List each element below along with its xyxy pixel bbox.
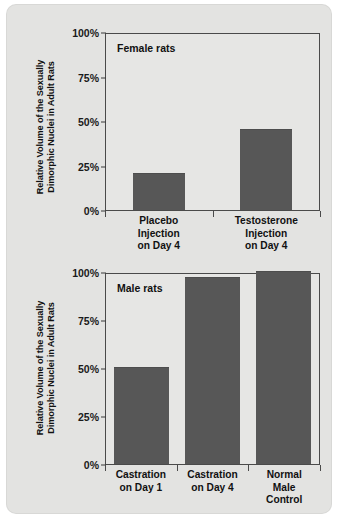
bar-cell: [106, 274, 177, 464]
x-category-label-line: Control: [248, 494, 320, 507]
x-axis-tick: [320, 211, 321, 217]
x-category-label-line: Injection: [213, 228, 321, 241]
x-category-label-line: Castration: [105, 469, 177, 482]
bar: [185, 277, 240, 464]
x-axis-tick: [248, 465, 249, 471]
x-category-label-line: on Day 4: [105, 240, 213, 253]
y-tick-mark: [101, 166, 106, 167]
y-axis-title-line2: Dimorphic Nuclei in Adult Rats: [46, 61, 57, 192]
chart-female-rats: Relative Volume of the Sexually Dimorphi…: [7, 10, 331, 258]
bar: [114, 367, 169, 464]
y-tick-mark: [101, 77, 106, 78]
y-axis-tick-labels-male: 0%25%50%75%100%: [59, 273, 99, 465]
y-axis-title-line2: Dimorphic Nuclei in Adult Rats: [46, 302, 57, 433]
y-axis-title-male: Relative Volume of the Sexually Dimorphi…: [29, 263, 63, 473]
y-tick-label: 50%: [78, 363, 99, 375]
x-category-label-line: Testosterone: [213, 215, 321, 228]
y-tick-label: 25%: [78, 161, 99, 173]
y-tick-mark: [101, 321, 106, 322]
bar: [256, 271, 311, 464]
y-axis-title-line1: Relative Volume of the Sexually: [35, 301, 46, 436]
x-category-label: Castrationon Day 4: [177, 469, 249, 507]
x-axis-labels-female: PlaceboInjectionon Day 4TestosteroneInje…: [105, 215, 320, 253]
y-axis-title-line1: Relative Volume of the Sexually: [35, 60, 46, 195]
y-tick-label: 100%: [72, 27, 99, 39]
y-tick-mark: [101, 33, 106, 34]
bar-cell: [177, 274, 248, 464]
x-category-label-line: Male: [248, 482, 320, 495]
x-category-label: NormalMaleControl: [248, 469, 320, 507]
y-tick-label: 25%: [78, 411, 99, 423]
x-axis-tick: [105, 211, 106, 217]
bar-cell: [106, 34, 213, 210]
x-category-label-line: on Day 4: [177, 482, 249, 495]
plot-area-male: Male rats: [105, 273, 320, 465]
x-category-label-line: Castration: [177, 469, 249, 482]
y-tick-mark: [101, 369, 106, 370]
x-axis-tick: [213, 211, 214, 217]
bar-group-female: [106, 34, 319, 210]
x-category-label-line: on Day 4: [213, 240, 321, 253]
figure-card: Relative Volume of the Sexually Dimorphi…: [7, 5, 331, 513]
bar-group-male: [106, 274, 319, 464]
y-tick-label: 75%: [78, 72, 99, 84]
y-tick-label: 0%: [84, 459, 99, 471]
x-axis-tick: [177, 465, 178, 471]
y-axis-title-female: Relative Volume of the Sexually Dimorphi…: [29, 22, 63, 232]
bar: [133, 173, 185, 210]
y-tick-label: 0%: [84, 205, 99, 217]
y-tick-label: 100%: [72, 267, 99, 279]
x-axis-labels-male: Castrationon Day 1Castrationon Day 4Norm…: [105, 469, 320, 507]
y-tick-mark: [101, 417, 106, 418]
chart-male-rats: Relative Volume of the Sexually Dimorphi…: [7, 255, 331, 510]
y-tick-label: 50%: [78, 116, 99, 128]
bar-cell: [248, 274, 319, 464]
x-axis-tick: [320, 465, 321, 471]
y-tick-mark: [101, 122, 106, 123]
x-category-label-line: on Day 1: [105, 482, 177, 495]
x-category-label: TestosteroneInjectionon Day 4: [213, 215, 321, 253]
x-axis-tick: [105, 465, 106, 471]
x-category-label-line: Placebo: [105, 215, 213, 228]
y-tick-mark: [101, 273, 106, 274]
bar-cell: [213, 34, 320, 210]
y-axis-tick-labels-female: 0%25%50%75%100%: [59, 33, 99, 211]
x-category-label-line: Injection: [105, 228, 213, 241]
x-category-label: PlaceboInjectionon Day 4: [105, 215, 213, 253]
plot-area-female: Female rats: [105, 33, 320, 211]
y-tick-label: 75%: [78, 315, 99, 327]
x-category-label-line: Normal: [248, 469, 320, 482]
x-category-label: Castrationon Day 1: [105, 469, 177, 507]
bar: [240, 129, 292, 210]
